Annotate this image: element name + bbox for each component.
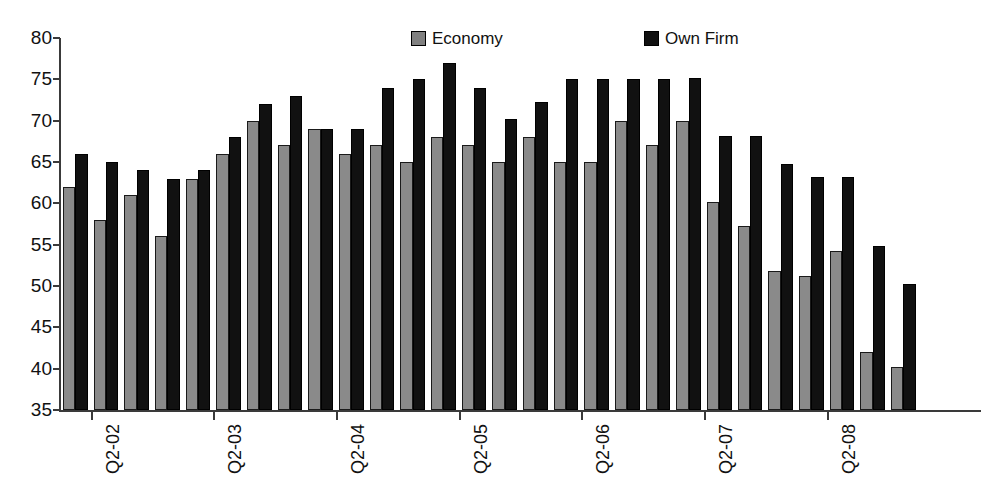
y-axis-tick-label: 70 [31,111,52,130]
bar-economy [492,162,504,410]
bar-economy [830,251,842,410]
x-axis-line [59,410,981,412]
bar-own-firm [689,78,701,410]
y-axis-tick [53,202,60,204]
y-axis-tick-label: 50 [31,276,52,295]
bar-own-firm [229,137,241,410]
bar-own-firm [106,162,118,410]
bar-economy [676,121,688,410]
y-axis-tick-label: 35 [31,400,52,419]
bar-economy [431,137,443,410]
bar-own-firm [903,284,915,410]
bar-own-firm [535,102,547,410]
y-axis-labels: 35404550556065707580 [0,38,52,410]
bar-series-container [60,38,980,410]
bar-own-firm [137,170,149,410]
bar-own-firm [167,179,179,410]
bar-economy [646,145,658,410]
bar-own-firm [290,96,302,410]
bar-economy [339,154,351,410]
bar-economy [707,202,719,410]
bar-own-firm [505,119,517,410]
bar-economy [370,145,382,410]
figure-caption [0,474,990,497]
bar-economy [400,162,412,410]
bar-economy [738,226,750,410]
bar-own-firm [351,129,363,410]
bar-own-firm [198,170,210,410]
x-axis-tick-label: Q2-08 [840,424,858,474]
y-axis-tick [53,161,60,163]
x-axis-tick-label: Q2-05 [472,424,490,474]
y-axis-tick [53,37,60,39]
y-axis-tick-label: 60 [31,193,52,212]
bar-own-firm [321,129,333,410]
bar-own-firm [627,79,639,410]
bar-economy [308,129,320,410]
bar-economy [615,121,627,410]
bar-own-firm [811,177,823,410]
bar-economy [523,137,535,410]
bar-own-firm [658,79,670,410]
x-axis-tick [704,411,706,420]
bar-own-firm [750,136,762,410]
chart-figure: Economy Own Firm 35404550556065707580 Q2… [0,0,990,497]
bar-economy [278,145,290,410]
bar-economy [768,271,780,410]
y-axis-tick [53,120,60,122]
y-axis-tick [53,409,60,411]
bar-economy [554,162,566,410]
bar-own-firm [75,154,87,410]
bar-own-firm [413,79,425,410]
x-axis-tick-label: Q2-02 [104,424,122,474]
y-axis-tick-label: 80 [31,28,52,47]
y-axis-tick [53,285,60,287]
bar-economy [216,154,228,410]
x-axis-tick [336,411,338,420]
bar-own-firm [443,63,455,410]
y-axis-tick-label: 55 [31,235,52,254]
x-axis-tick-label: Q2-03 [226,424,244,474]
y-axis-tick [53,244,60,246]
x-axis-tick [459,411,461,420]
bar-economy [186,179,198,410]
y-axis-tick [53,368,60,370]
bar-own-firm [781,164,793,410]
y-axis-tick-label: 75 [31,69,52,88]
bar-own-firm [719,136,731,410]
bar-economy [63,187,75,410]
y-axis-tick-label: 45 [31,317,52,336]
bar-own-firm [259,104,271,410]
bar-economy [247,121,259,410]
bar-own-firm [474,88,486,410]
x-axis-tick [827,411,829,420]
bar-economy [799,276,811,410]
bar-economy [155,236,167,410]
y-axis-tick-label: 65 [31,152,52,171]
x-axis-tick [91,411,93,420]
x-axis-tick-label: Q2-06 [594,424,612,474]
y-axis-tick [53,78,60,80]
bar-economy [462,145,474,410]
bar-economy [860,352,872,410]
bar-economy [891,367,903,410]
x-axis-tick [581,411,583,420]
x-axis-tick-label: Q2-07 [717,424,735,474]
x-axis-tick-label: Q2-04 [349,424,367,474]
bar-economy [124,195,136,410]
x-axis-tick [213,411,215,420]
bar-own-firm [382,88,394,410]
bar-economy [584,162,596,410]
bar-own-firm [566,79,578,410]
y-axis-tick [53,326,60,328]
bar-own-firm [842,177,854,410]
plot-area: Q2-02Q2-03Q2-04Q2-05Q2-06Q2-07Q2-08 [60,38,980,410]
bar-own-firm [873,246,885,410]
bar-own-firm [597,79,609,410]
y-axis-tick-label: 40 [31,359,52,378]
bar-economy [94,220,106,410]
